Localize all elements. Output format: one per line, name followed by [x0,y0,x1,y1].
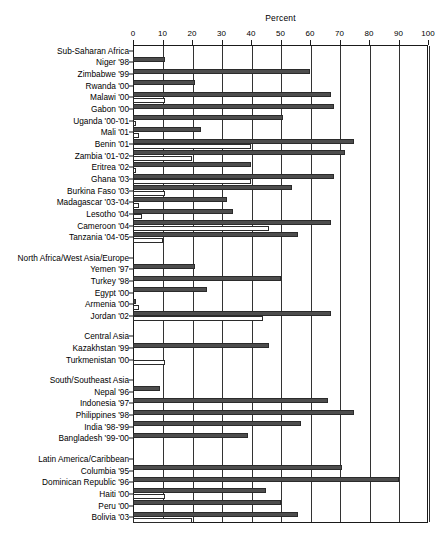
row-bars [133,264,428,276]
row-bars [133,354,428,366]
bar-filled [133,398,328,403]
row-category-label: Dominican Republic '96 [42,478,129,486]
bar-hollow [133,238,163,243]
row-category-label: Lesotho '04 [86,210,129,218]
row-category-label: Armenia '00 [85,300,129,308]
bar-hollow [133,226,269,231]
bar-filled [133,139,354,144]
row-bars [133,115,428,127]
row-category-label: Ghana '03 [91,175,129,183]
row-category-label: Uganda '00-'01 [73,117,129,125]
row-bars [133,138,428,150]
chart-row: Indonesia '97 [0,398,440,410]
row-category-label: Niger '98 [96,58,129,66]
row-category-label: Burkina Faso '03 [67,187,129,195]
row-tick-mark [129,50,133,51]
bar-filled [133,127,201,132]
bar-filled [133,162,251,167]
bar-hollow [133,360,165,365]
bar-filled [133,92,331,97]
chart-row: Malawi '00 [0,92,440,104]
row-bars [133,127,428,139]
bar-hollow [133,494,165,499]
chart-container: Percent 0102030405060708090100 Sub-Sahar… [0,0,440,541]
row-bars [133,150,428,162]
row-category-label: Egypt '00 [95,289,129,297]
row-bars [133,103,428,115]
group-header-row: North Africa/West Asia/Europe [0,252,440,264]
chart-row: Lesotho '04 [0,208,440,220]
row-category-label: Eritrea '02 [91,163,129,171]
x-tick-label-0: 0 [131,29,135,38]
group-label: Sub-Saharan Africa [57,47,129,55]
row-category-label: Bolivia '03 [91,513,129,521]
bar-hollow [133,133,139,138]
row-category-label: Kazakhstan '99 [73,344,129,352]
bar-filled [133,174,334,179]
bar-filled [133,197,227,202]
group-header-row: Latin America/Caribbean [0,453,440,465]
bar-filled [133,185,292,190]
row-bars [133,232,428,244]
bar-filled [133,115,283,120]
row-bars [133,398,428,410]
row-category-label: Nepal '96 [94,388,129,396]
chart-row: Rwanda '00 [0,80,440,92]
row-tick-mark [129,458,133,459]
x-tick-label-70: 70 [335,29,344,38]
row-bars [133,220,428,232]
chart-row: Jordan '02 [0,310,440,322]
chart-row: Kazakhstan '99 [0,342,440,354]
bar-filled [133,57,165,62]
x-tick-label-30: 30 [217,29,226,38]
x-tick-label-80: 80 [365,29,374,38]
row-category-label: Bangladesh '99-'00 [58,434,129,442]
chart-row: Peru '00 [0,500,440,512]
row-bars [133,386,428,398]
row-bars [133,409,428,421]
chart-row: Columbia '95 [0,465,440,477]
row-bars [133,275,428,287]
row-bars [133,57,428,69]
row-category-label: Benin '01 [95,140,129,148]
x-tick-label-60: 60 [306,29,315,38]
row-category-label: India '98-'99 [84,423,129,431]
x-tick-label-20: 20 [188,29,197,38]
row-category-label: Peru '00 [98,501,129,509]
bar-filled [133,232,298,237]
row-bars [133,185,428,197]
chart-row: Gabon '00 [0,103,440,115]
row-category-label: Turkey '98 [91,277,129,285]
row-bars [133,342,428,354]
row-category-label: Indonesia '97 [80,399,129,407]
bar-hollow [133,214,142,219]
bar-filled [133,209,233,214]
row-bars [133,299,428,311]
chart-row: Niger '98 [0,57,440,69]
row-tick-mark [129,380,133,381]
chart-row: Turkmenistan '00 [0,354,440,366]
chart-row: Haiti '00 [0,488,440,500]
row-bars [133,500,428,512]
chart-row: Burkina Faso '03 [0,185,440,197]
row-category-label: Mali '01 [101,128,129,136]
chart-axis-title: Percent [133,13,428,23]
bar-filled [133,488,266,493]
row-bars [133,197,428,209]
bar-hollow [133,518,192,523]
row-bars [133,68,428,80]
row-category-label: Haiti '00 [99,490,129,498]
row-bars [133,92,428,104]
bar-filled [133,311,331,316]
row-category-label: Columbia '95 [81,466,129,474]
chart-row: Nepal '96 [0,386,440,398]
row-bars [133,162,428,174]
row-tick-mark [129,257,133,258]
group-header-row: Central Asia [0,331,440,343]
bar-hollow [133,203,139,208]
chart-row: Mali '01 [0,127,440,139]
row-tick-mark [129,336,133,337]
bar-filled [133,150,345,155]
bar-filled [133,220,331,225]
chart-rows: Sub-Saharan AfricaNiger '98Zimbabwe '99R… [0,45,440,523]
